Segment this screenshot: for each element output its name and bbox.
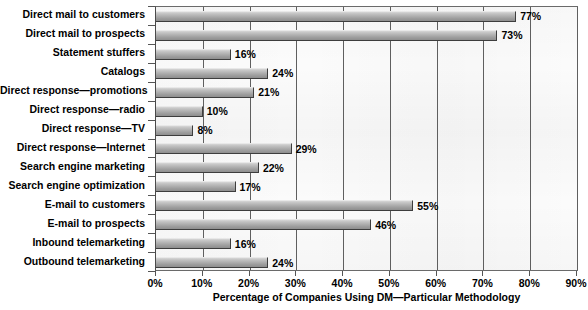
- category-label: Direct response—Internet: [0, 142, 145, 153]
- bar-row: 17%: [156, 181, 577, 192]
- bar-row: 10%: [156, 106, 577, 117]
- y-axis-tick: [148, 271, 155, 272]
- x-axis-tick-label: 20%: [238, 277, 259, 289]
- bar: [156, 49, 231, 60]
- bar-value-label: 73%: [501, 29, 522, 41]
- x-axis-tick-label: 90%: [565, 277, 586, 289]
- x-axis-tick: [295, 271, 296, 276]
- bar-row: 21%: [156, 87, 577, 98]
- gridline: [250, 7, 251, 270]
- gridline: [343, 7, 344, 270]
- gridline: [203, 7, 204, 270]
- x-axis-tick: [576, 271, 577, 276]
- category-label: E-mail to prospects: [0, 218, 145, 229]
- bar-value-label: 22%: [263, 162, 284, 174]
- bar: [156, 125, 193, 136]
- bar-value-label: 55%: [417, 200, 438, 212]
- y-axis-tick: [148, 6, 155, 7]
- category-label: Direct response—TV: [0, 123, 145, 134]
- gridline: [483, 7, 484, 270]
- y-axis-tick: [148, 82, 155, 83]
- category-label: E-mail to customers: [0, 199, 145, 210]
- x-axis-tick-label: 40%: [332, 277, 353, 289]
- gridline: [437, 7, 438, 270]
- bar-value-label: 29%: [296, 143, 317, 155]
- x-axis-tick: [342, 271, 343, 276]
- bar-value-label: 46%: [375, 219, 396, 231]
- bar: [156, 68, 268, 79]
- bar-row: 29%: [156, 143, 577, 154]
- y-axis-tick: [148, 63, 155, 64]
- bar: [156, 219, 371, 230]
- bar-value-label: 17%: [240, 181, 261, 193]
- bar-value-label: 16%: [235, 48, 256, 60]
- bar-value-label: 24%: [272, 257, 293, 269]
- bar-row: 46%: [156, 219, 577, 230]
- y-axis-tick: [148, 139, 155, 140]
- category-label: Outbound telemarketing: [0, 256, 145, 267]
- x-axis-tick: [202, 271, 203, 276]
- category-label: Direct mail to prospects: [0, 28, 145, 39]
- bar-row: 73%: [156, 30, 577, 41]
- bar: [156, 162, 259, 173]
- bar-row: 24%: [156, 68, 577, 79]
- bar-value-label: 8%: [197, 124, 212, 136]
- y-axis-tick: [148, 233, 155, 234]
- bar: [156, 238, 231, 249]
- x-axis-tick: [436, 271, 437, 276]
- x-axis-tick-label: 50%: [378, 277, 399, 289]
- bar-value-label: 24%: [272, 67, 293, 79]
- category-label: Catalogs: [0, 66, 145, 77]
- bar-value-label: 10%: [207, 105, 228, 117]
- y-axis-tick: [148, 176, 155, 177]
- bar-row: 16%: [156, 238, 577, 249]
- category-label: Direct mail to customers: [0, 9, 145, 20]
- y-axis-tick: [148, 195, 155, 196]
- y-axis-tick: [148, 120, 155, 121]
- x-axis-tick: [155, 271, 156, 276]
- category-axis-labels: Direct mail to customersDirect mail to p…: [0, 6, 150, 271]
- gridline: [577, 7, 578, 270]
- bar-value-label: 77%: [520, 10, 541, 22]
- bar-value-label: 16%: [235, 238, 256, 250]
- x-axis-tick-label: 80%: [519, 277, 540, 289]
- plot-area: 77%73%16%24%21%10%8%29%22%17%55%46%16%24…: [155, 6, 578, 271]
- x-axis-tick: [249, 271, 250, 276]
- category-label: Direct response—radio: [0, 104, 145, 115]
- gridline: [296, 7, 297, 270]
- category-label: Search engine optimization: [0, 180, 145, 191]
- x-axis-tick: [389, 271, 390, 276]
- plot-background: [156, 7, 577, 270]
- x-axis-tick-label: 70%: [472, 277, 493, 289]
- category-label: Statement stuffers: [0, 47, 145, 58]
- bar-row: 16%: [156, 49, 577, 60]
- category-label: Direct response—promotions: [0, 85, 145, 96]
- y-axis-tick: [148, 214, 155, 215]
- category-label: Search engine marketing: [0, 161, 145, 172]
- bar: [156, 87, 254, 98]
- bar: [156, 11, 516, 22]
- bar-row: 8%: [156, 125, 577, 136]
- bar: [156, 181, 236, 192]
- bar-row: 24%: [156, 257, 577, 268]
- bar-row: 77%: [156, 11, 577, 22]
- bar-chart: Direct mail to customersDirect mail to p…: [0, 0, 588, 310]
- x-axis-tick-label: 30%: [285, 277, 306, 289]
- bar-row: 22%: [156, 162, 577, 173]
- bar: [156, 30, 497, 41]
- x-axis-tick-label: 60%: [425, 277, 446, 289]
- bar: [156, 106, 203, 117]
- bar: [156, 257, 268, 268]
- category-label: Inbound telemarketing: [0, 237, 145, 248]
- x-axis-tick-label: 10%: [191, 277, 212, 289]
- x-axis-tick: [529, 271, 530, 276]
- bar-row: 55%: [156, 200, 577, 211]
- x-axis-tick-label: 0%: [147, 277, 162, 289]
- x-axis-title: Percentage of Companies Using DM—Particu…: [155, 291, 578, 303]
- y-axis-tick: [148, 157, 155, 158]
- y-axis-tick: [148, 44, 155, 45]
- bar: [156, 143, 292, 154]
- bar: [156, 200, 413, 211]
- x-axis-tick: [482, 271, 483, 276]
- bar-value-label: 21%: [258, 86, 279, 98]
